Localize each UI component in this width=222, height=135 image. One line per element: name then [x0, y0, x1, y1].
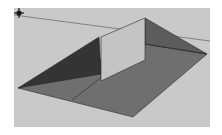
- model-scene[interactable]: [14, 8, 210, 127]
- 3d-viewport[interactable]: [14, 8, 210, 127]
- move-cursor-icon: [14, 8, 24, 18]
